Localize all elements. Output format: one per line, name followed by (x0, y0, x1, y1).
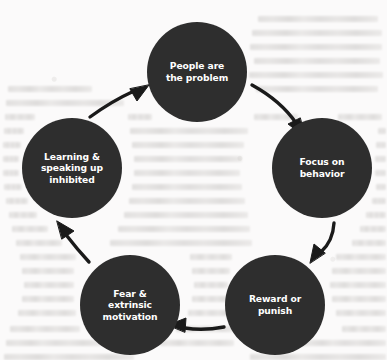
arrow-learning-to-people (90, 85, 149, 117)
node-fear-and-extrinsic-motivation: Fear & extrinsic motivation (80, 255, 180, 355)
node-people-are-the-problem: People are the problem (147, 22, 247, 122)
node-focus-on-behavior: Focus on behavior (272, 118, 372, 218)
node-reward-or-punish: Reward or punish (225, 255, 325, 355)
node-label: Fear & extrinsic motivation (97, 288, 162, 323)
arrow-focus-to-reward (310, 223, 334, 263)
node-label: People are the problem (161, 60, 233, 83)
node-label: Focus on behavior (295, 156, 350, 179)
cycle-diagram: People are the problem Focus on behavior… (0, 0, 387, 360)
node-label: Reward or punish (244, 293, 306, 316)
node-label: Learning & speaking up inhibited (36, 151, 108, 186)
node-learning-and-speaking-up-inhibited: Learning & speaking up inhibited (22, 118, 122, 218)
arrow-fear-to-learning (57, 221, 89, 262)
